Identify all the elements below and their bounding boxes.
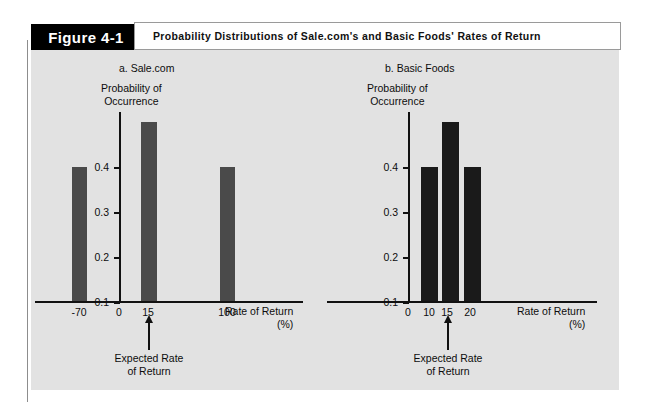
expected-return-arrow-basic-foods bbox=[447, 322, 449, 350]
chart-basic-foods: b. Basic Foods Probability of Occurrence… bbox=[325, 50, 619, 390]
y-tick-mark bbox=[403, 302, 409, 304]
x-axis-title-line1: Rate of Return bbox=[225, 305, 293, 317]
figure-title: Probability Distributions of Sale.com's … bbox=[153, 30, 541, 42]
x-axis-line-sale-com bbox=[35, 301, 303, 303]
expected-return-label-basic-foods: Expected Rate of Return bbox=[383, 352, 513, 378]
x-axis-title-units: (%) bbox=[517, 318, 585, 331]
x-tick-label: 20 bbox=[456, 306, 484, 318]
expected-return-line2: of Return bbox=[84, 365, 214, 378]
figure-header: Figure 4-1 Probability Distributions of … bbox=[31, 24, 619, 50]
y-tick-mark bbox=[114, 302, 120, 304]
x-axis-title-basic-foods: Rate of Return (%) bbox=[517, 305, 585, 331]
x-tick-label: -70 bbox=[64, 306, 94, 318]
x-tick-label: 0 bbox=[105, 306, 133, 318]
bar-basic-foods-10 bbox=[421, 167, 438, 301]
expected-return-line2: of Return bbox=[383, 365, 513, 378]
bars-layer-basic-foods bbox=[325, 50, 619, 301]
figure-number-badge: Figure 4-1 bbox=[31, 24, 141, 50]
bars-layer-sale-com bbox=[31, 50, 325, 301]
bar-sale-com-neg70 bbox=[72, 167, 87, 301]
figure-title-band: Probability Distributions of Sale.com's … bbox=[134, 22, 621, 50]
bar-basic-foods-20 bbox=[464, 167, 481, 301]
expected-return-line1: Expected Rate bbox=[84, 352, 214, 365]
x-axis-title-sale-com: Rate of Return (%) bbox=[225, 305, 293, 331]
x-axis-title-units: (%) bbox=[225, 318, 293, 331]
chart-sale-com: a. Sale.com Probability of Occurrence 0.… bbox=[31, 50, 325, 390]
expected-return-arrow-sale-com bbox=[148, 322, 150, 350]
x-axis-line-basic-foods bbox=[327, 301, 597, 303]
x-axis-title-line1: Rate of Return bbox=[517, 305, 585, 317]
left-margin-rule bbox=[27, 40, 28, 402]
bar-basic-foods-15 bbox=[442, 122, 459, 301]
figure-number-label: Figure 4-1 bbox=[48, 29, 124, 46]
expected-return-line1: Expected Rate bbox=[383, 352, 513, 365]
bar-sale-com-15 bbox=[141, 122, 157, 301]
bar-sale-com-100 bbox=[220, 167, 235, 301]
expected-return-label-sale-com: Expected Rate of Return bbox=[84, 352, 214, 378]
figure-panel: a. Sale.com Probability of Occurrence 0.… bbox=[31, 50, 619, 390]
